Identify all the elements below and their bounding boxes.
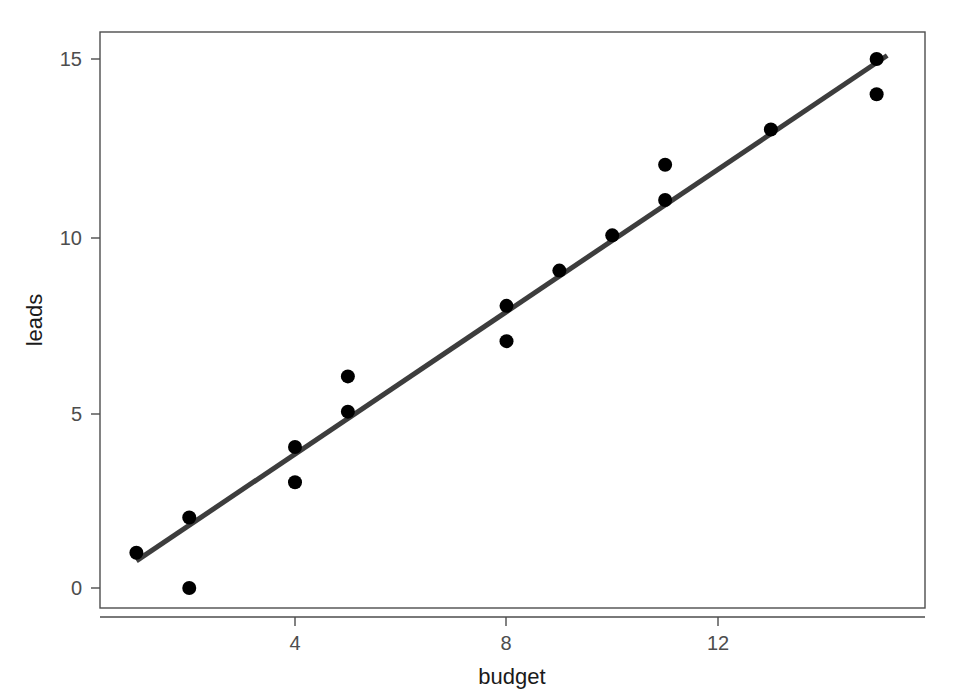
y-tick-label-5: 5	[71, 403, 82, 425]
data-point	[341, 369, 355, 383]
x-axis-ticks	[295, 617, 718, 626]
data-point	[129, 546, 143, 560]
data-point	[182, 510, 196, 524]
y-tick-label-15: 15	[60, 48, 82, 70]
data-point	[182, 581, 196, 595]
data-point	[500, 299, 514, 313]
x-tick-label-8: 8	[500, 632, 511, 654]
y-tick-label-0: 0	[71, 577, 82, 599]
data-point	[288, 440, 302, 454]
data-point	[764, 123, 778, 137]
x-tick-label-4: 4	[289, 632, 300, 654]
data-point	[341, 405, 355, 419]
y-axis-tick-labels: 0 5 10 15	[60, 48, 82, 599]
data-point	[605, 228, 619, 242]
plot-panel-background	[100, 32, 925, 608]
data-point	[658, 158, 672, 172]
scatter-plot-svg: 0 5 10 15 leads 4 8 12 budget	[0, 0, 963, 692]
chart-figure: 0 5 10 15 leads 4 8 12 budget	[0, 0, 963, 692]
data-point	[870, 87, 884, 101]
x-axis-tick-labels: 4 8 12	[289, 632, 729, 654]
y-axis-title: leads	[22, 294, 47, 347]
x-tick-label-12: 12	[707, 632, 729, 654]
data-point	[500, 334, 514, 348]
data-point	[870, 52, 884, 66]
data-point	[658, 193, 672, 207]
y-axis-ticks	[91, 59, 100, 588]
data-point	[552, 264, 566, 278]
y-tick-label-10: 10	[60, 227, 82, 249]
x-axis-title: budget	[478, 664, 545, 689]
data-point	[288, 475, 302, 489]
